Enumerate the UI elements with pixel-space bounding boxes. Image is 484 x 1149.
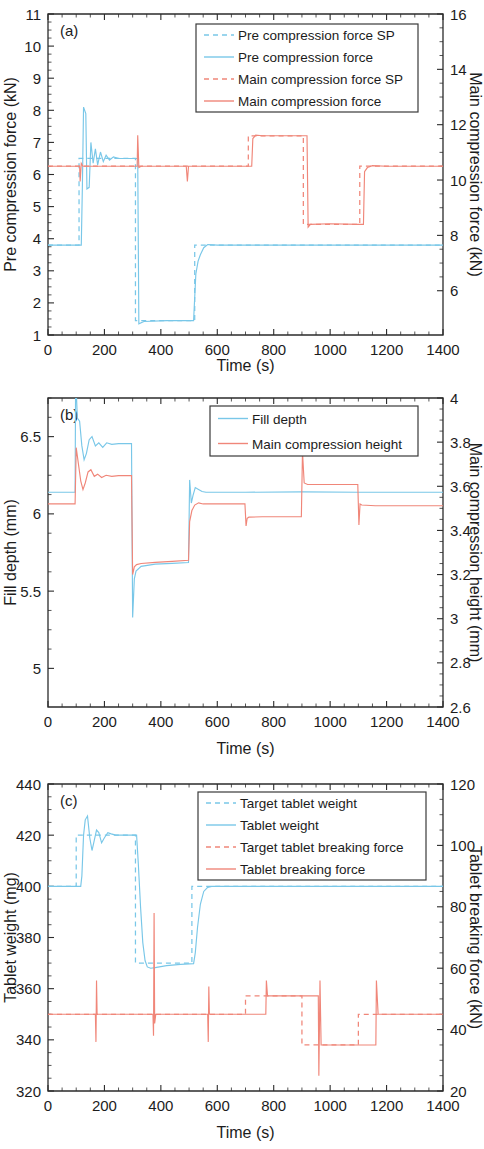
x-axis-title: Time (s) [216, 740, 274, 757]
y-axis-title-left: Pre compression force (kN) [2, 77, 19, 272]
y-tick-label-right: 8 [450, 227, 458, 244]
chart-panel-c: 0200400600800100012001400320340360380400… [0, 766, 484, 1149]
panel-tag: (c) [60, 792, 78, 809]
x-tick-label: 1200 [370, 341, 403, 358]
legend-label: Tablet weight [240, 818, 319, 833]
y-tick-label-left: 2 [33, 294, 41, 311]
legend-label: Tablet breaking force [240, 862, 365, 877]
legend-label: Main compression height [252, 437, 402, 452]
trace-main-compression-height [48, 448, 443, 575]
legend-label: Target tablet weight [240, 796, 357, 811]
x-tick-label: 1000 [313, 341, 346, 358]
plot-traces [48, 107, 443, 324]
x-tick-label: 200 [92, 341, 117, 358]
y-tick-label-right: 16 [450, 6, 467, 23]
y-tick-label-right: 3 [450, 610, 458, 627]
y-tick-label-left: 5.5 [20, 583, 41, 600]
x-tick-label: 600 [205, 341, 230, 358]
x-tick-label: 800 [261, 341, 286, 358]
y-axis-title-right: Tablet breaking force (kN) [467, 846, 484, 1029]
trace-pre-compression-force-sp [48, 158, 443, 320]
panel-a: 0200400600800100012001400123456789101168… [0, 0, 484, 382]
y-tick-label-left: 7 [33, 134, 41, 151]
x-axis-title: Time (s) [216, 357, 274, 374]
trace-main-compression-force-sp [48, 136, 443, 225]
y-tick-label-left: 6 [33, 505, 41, 522]
y-axis-title-right: Main compression force (kN) [467, 72, 484, 277]
y-tick-label-left: 380 [16, 929, 41, 946]
y-tick-label-right: 40 [450, 1021, 467, 1038]
y-tick-label-left: 320 [16, 1083, 41, 1100]
panel-b: 020040060080010001200140055.566.52.62.83… [0, 382, 484, 766]
y-axis-left: 1234567891011 [24, 6, 54, 344]
x-tick-label: 1400 [426, 1097, 459, 1114]
y-tick-label-left: 9 [33, 70, 41, 87]
x-tick-label: 400 [148, 1097, 173, 1114]
chart-panel-a: 0200400600800100012001400123456789101168… [0, 0, 484, 382]
legend-label: Target tablet breaking force [240, 840, 404, 855]
trace-tablet-breaking-force [48, 913, 443, 1076]
x-tick-label: 0 [44, 1097, 52, 1114]
y-tick-label-right: 2.6 [450, 699, 471, 716]
y-tick-label-left: 8 [33, 102, 41, 119]
y-tick-label-right: 4 [450, 390, 458, 407]
y-tick-label-right: 10 [450, 172, 467, 189]
y-axis-right: 6810121416 [437, 6, 467, 300]
trace-target-tablet-breaking-force [48, 996, 443, 1045]
x-tick-label: 800 [261, 1097, 286, 1114]
legend-label: Pre compression force SP [238, 28, 395, 43]
y-tick-label-left: 400 [16, 878, 41, 895]
x-tick-label: 0 [44, 341, 52, 358]
y-tick-label-right: 6 [450, 282, 458, 299]
y-tick-label-left: 360 [16, 980, 41, 997]
figure-root: 0200400600800100012001400123456789101168… [0, 0, 484, 1149]
y-tick-label-left: 6 [33, 166, 41, 183]
y-tick-label-left: 5 [33, 660, 41, 677]
x-tick-label: 400 [148, 713, 173, 730]
x-tick-label: 1400 [426, 713, 459, 730]
x-tick-label: 400 [148, 341, 173, 358]
legend: Pre compression force SPPre compression … [196, 24, 418, 112]
x-tick-label: 1000 [313, 1097, 346, 1114]
y-tick-label-left: 340 [16, 1031, 41, 1048]
y-axis-title-right: Main compression height (mm) [467, 443, 484, 663]
y-tick-label-right: 12 [450, 116, 467, 133]
x-tick-label: 200 [92, 713, 117, 730]
x-tick-label: 600 [205, 713, 230, 730]
y-tick-label-left: 10 [24, 38, 41, 55]
y-axis-title-left: Tablet weight (mg) [2, 872, 19, 1003]
y-tick-label-right: 80 [450, 898, 467, 915]
y-tick-label-left: 11 [25, 6, 41, 23]
y-tick-label-left: 3 [33, 262, 41, 279]
x-tick-label: 1000 [313, 713, 346, 730]
x-tick-label: 600 [205, 1097, 230, 1114]
x-tick-label: 1200 [370, 1097, 403, 1114]
legend: Target tablet weightTablet weightTarget … [198, 792, 426, 880]
legend-label: Main compression force [238, 94, 381, 109]
x-tick-label: 1400 [426, 341, 459, 358]
y-tick-label-left: 5 [33, 198, 41, 215]
y-tick-label-left: 1 [33, 327, 41, 344]
x-axis-title: Time (s) [216, 1124, 274, 1141]
y-tick-label-left: 420 [16, 827, 41, 844]
y-axis-right: 2.62.833.23.43.63.84 [437, 390, 471, 716]
legend: Fill depthMain compression height [210, 406, 418, 456]
legend-label: Pre compression force [238, 50, 373, 65]
legend-label: Fill depth [252, 412, 307, 427]
panel-c: 0200400600800100012001400320340360380400… [0, 766, 484, 1149]
legend-label: Main compression force SP [238, 72, 403, 87]
x-tick-label: 1200 [370, 713, 403, 730]
y-tick-label-right: 120 [450, 776, 475, 793]
panel-tag: (a) [60, 22, 78, 39]
y-tick-label-right: 20 [450, 1083, 467, 1100]
y-tick-label-left: 4 [33, 230, 41, 247]
x-tick-label: 200 [92, 1097, 117, 1114]
y-axis-left: 55.566.5 [20, 398, 54, 677]
y-tick-label-right: 60 [450, 960, 467, 977]
y-tick-label-right: 14 [450, 61, 467, 78]
chart-panel-b: 020040060080010001200140055.566.52.62.83… [0, 382, 484, 766]
x-tick-label: 0 [44, 713, 52, 730]
y-axis-title-left: Fill depth (mm) [2, 499, 19, 606]
trace-main-compression-force [48, 135, 443, 227]
trace-pre-compression-force [48, 107, 443, 324]
